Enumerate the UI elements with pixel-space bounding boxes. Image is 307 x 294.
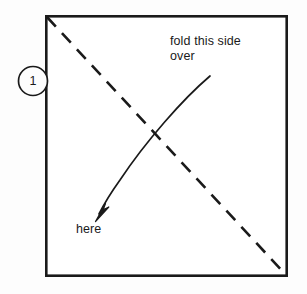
diagram-canvas: [0, 0, 307, 294]
step-number-label: 1: [18, 66, 48, 96]
fold-instruction-diagram: 1 fold this side over here: [0, 0, 307, 294]
fold-target-label: here: [76, 222, 101, 237]
fold-instruction-label: fold this side over: [170, 34, 241, 64]
